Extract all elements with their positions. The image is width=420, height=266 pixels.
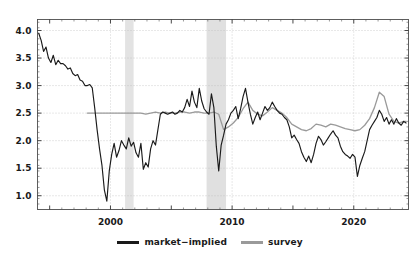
x-tick-label: 2000	[98, 217, 123, 227]
shaded-region-recession-2001	[125, 20, 134, 210]
y-axis-tick-labels: 1.01.52.02.53.03.54.0	[16, 26, 32, 201]
chart-legend: market−implied survey	[0, 238, 420, 247]
legend-swatch-market-implied	[117, 241, 139, 243]
legend-label-market-implied: market−implied	[144, 238, 227, 247]
y-tick-label: 1.0	[16, 191, 32, 201]
line-chart-plot: 1.01.52.02.53.03.54.0 200020102020	[0, 0, 420, 266]
x-axis-tick-labels: 200020102020	[98, 217, 366, 227]
legend-entry-market-implied: market−implied	[117, 238, 227, 247]
legend-label-survey: survey	[268, 238, 303, 247]
x-tick-label: 2020	[341, 217, 366, 227]
legend-entry-survey: survey	[241, 238, 303, 247]
chart-container: 1.01.52.02.53.03.54.0 200020102020 marke…	[0, 0, 420, 266]
y-tick-label: 3.0	[16, 81, 32, 91]
y-tick-label: 1.5	[16, 163, 32, 173]
x-tick-label: 2010	[220, 217, 245, 227]
y-tick-label: 3.5	[16, 53, 32, 63]
legend-swatch-survey	[241, 241, 263, 243]
y-tick-label: 4.0	[16, 26, 32, 36]
y-tick-label: 2.5	[16, 108, 32, 118]
y-tick-label: 2.0	[16, 136, 32, 146]
